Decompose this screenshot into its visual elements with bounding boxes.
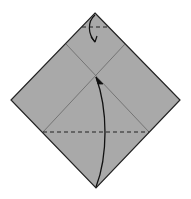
origami-diagram <box>0 0 191 199</box>
